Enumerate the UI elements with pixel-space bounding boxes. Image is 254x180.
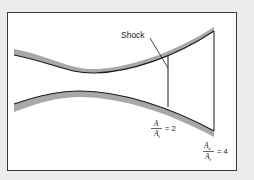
lower-wall-shading <box>14 91 214 137</box>
ratio2-numerator: Ae <box>203 141 212 151</box>
ratio1-equals: = 2 <box>165 124 176 133</box>
ratio2-denominator: At <box>204 152 212 162</box>
nozzle-diagram: Shock A At = 2 Ae At = 4 <box>0 0 254 180</box>
ratio1-numerator: A <box>153 119 159 128</box>
ratio2-equals: = 4 <box>217 147 228 156</box>
ratio1-denominator: At <box>153 129 161 139</box>
exit-area-ratio-label: Ae At = 4 <box>203 141 228 162</box>
upper-wall-shading <box>14 27 214 73</box>
upper-wall-line <box>14 31 214 73</box>
shock-area-ratio-label: A At = 2 <box>151 119 176 139</box>
shock-label: Shock <box>121 30 145 40</box>
